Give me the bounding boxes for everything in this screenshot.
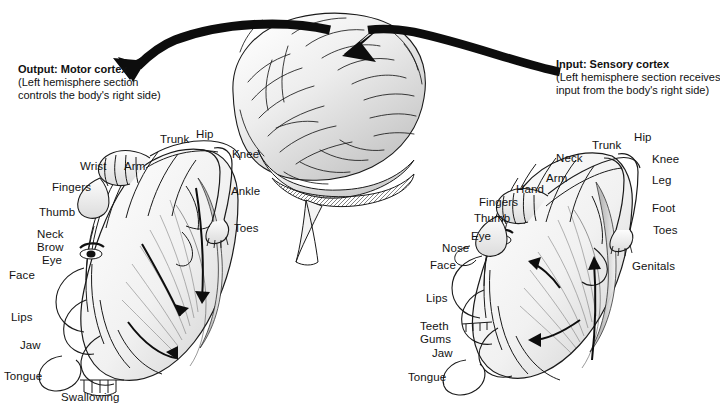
brain-illustration [233,13,426,265]
sensory-label-lips: Lips [426,292,448,304]
motor-callout-line1: (Left hemisphere section [18,76,161,89]
sensory-label-hand: Hand [516,183,544,195]
sensory-label-gums: Gums [420,333,451,345]
sensory-label-jaw: Jaw [432,347,453,359]
sensory-callout-line2: input from the body's right side) [556,84,720,97]
sensory-label-hip: Hip [634,131,652,143]
sensory-label-face: Face [430,259,456,271]
motor-label-thumb: Thumb [39,206,75,218]
motor-label-fingers: Fingers [52,181,91,193]
motor-label-wrist: Wrist [80,160,106,172]
sensory-label-neck: Neck [556,152,583,164]
sensory-cortex-callout: Input: Sensory cortex (Left hemisphere s… [556,58,720,97]
sensory-label-nose: Nose [442,242,469,254]
sensory-label-arm: Arm [546,172,567,184]
motor-label-brow: Brow [37,241,64,253]
motor-label-hip: Hip [196,128,214,140]
motor-label-trunk: Trunk [160,133,189,145]
sensory-callout-heading: Input: Sensory cortex [556,58,720,71]
sensory-label-thumb: Thumb [474,212,510,224]
sensory-label-tongue: Tongue [408,371,446,383]
motor-cortex-callout: Output: Motor cortex (Left hemisphere se… [18,63,161,102]
motor-callout-line2: controls the body's right side) [18,89,161,102]
motor-label-tongue: Tongue [4,370,42,382]
motor-homunculus-art [39,141,240,396]
motor-label-jaw: Jaw [20,339,41,351]
sensory-callout-line1: (Left hemisphere section receives [556,71,720,84]
motor-label-swallowing: Swallowing [61,391,120,403]
motor-label-toes: Toes [234,222,259,234]
motor-label-lips: Lips [11,311,33,323]
sensory-label-fingers: Fingers [479,196,518,208]
motor-callout-heading: Output: Motor cortex [18,63,161,76]
sensory-label-eye: Eye [471,230,491,242]
motor-label-knee: Knee [232,148,259,160]
motor-label-neck: Neck [37,228,64,240]
sensory-label-genitals: Genitals [632,260,675,272]
sensory-label-toes: Toes [653,224,678,236]
motor-label-arm: Arm [124,160,145,172]
sensory-label-teeth: Teeth [420,320,449,332]
motor-label-face: Face [9,269,35,281]
sensory-label-leg: Leg [652,174,672,186]
motor-label-ankle: Ankle [231,185,260,197]
sensory-label-foot: Foot [652,202,675,214]
sensory-label-trunk: Trunk [592,139,621,151]
motor-label-eye: Eye [42,254,62,266]
sensory-label-knee: Knee [652,153,679,165]
